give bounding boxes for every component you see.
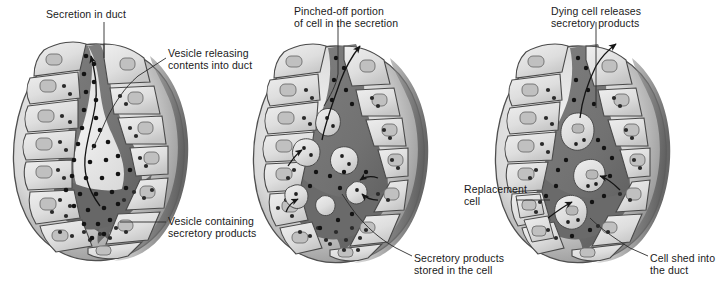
label-cell-shed-into-duct: Cell shed intothe duct <box>650 252 715 276</box>
label-vesicle-containing-products: Vesicle containingsecretory products <box>168 215 256 239</box>
label-vesicle-releasing-contents: Vesicle releasingcontents into duct <box>168 47 252 71</box>
label-secretory-products-stored: Secretory productsstored in the cell <box>414 252 504 276</box>
gland-illustrations <box>0 0 722 285</box>
figure-canvas: Secretion in duct Vesicle releasingconte… <box>0 0 722 285</box>
label-dying-cell-releases: Dying cell releasessecretory products <box>551 5 641 29</box>
label-replacement-cell: Replacementcell <box>464 183 527 207</box>
gland-apocrine <box>253 22 428 263</box>
label-secretion-in-duct: Secretion in duct <box>46 8 126 20</box>
gland-holocrine <box>495 22 670 263</box>
label-pinched-off-portion: Pinched-off portionof cell in the secret… <box>294 5 398 29</box>
gland-merocrine <box>13 22 188 261</box>
